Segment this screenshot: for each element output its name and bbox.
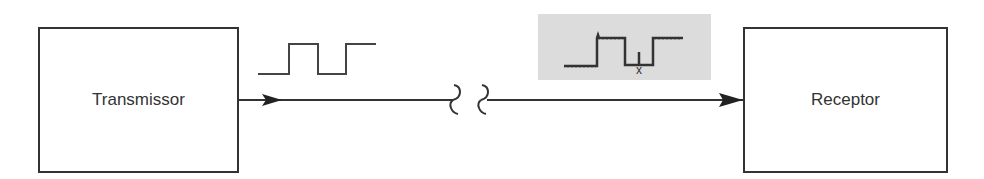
clean-square-wave	[258, 44, 376, 74]
diagram-lines: x	[0, 0, 984, 179]
break-symbol-right	[481, 85, 488, 100]
noisy-square-wave	[564, 35, 683, 66]
error-marker-label: x	[636, 63, 642, 77]
break-symbol-left	[453, 85, 460, 100]
